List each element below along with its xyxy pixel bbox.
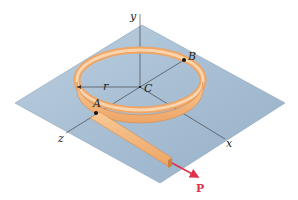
label-z: z: [57, 132, 64, 145]
label-y: y: [129, 10, 137, 23]
label-p: P: [196, 182, 204, 195]
point-b: [182, 58, 186, 62]
point-c: [139, 86, 141, 88]
label-c: C: [144, 82, 153, 95]
label-x: x: [226, 137, 233, 150]
point-a: [94, 111, 98, 115]
label-r: r: [103, 80, 109, 93]
coiled-strip-diagram: y B r C A z x P: [0, 0, 298, 200]
label-b: B: [187, 50, 196, 63]
label-a: A: [92, 97, 101, 110]
